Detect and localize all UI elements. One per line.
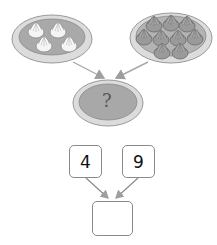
- arrow-right-plate: [116, 62, 148, 78]
- number-box-right: 9: [122, 145, 155, 178]
- left-plate: [12, 15, 92, 63]
- arrow-left-box: [86, 178, 108, 198]
- arrow-left-plate: [73, 62, 104, 78]
- arrow-right-box: [116, 178, 138, 198]
- question-mark: ?: [102, 90, 112, 111]
- number-box-left: 4: [69, 145, 102, 178]
- right-plate: [130, 13, 212, 63]
- answer-box[interactable]: [92, 201, 133, 236]
